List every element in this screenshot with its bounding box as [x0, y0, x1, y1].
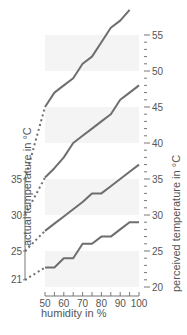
- right-tick-label: 30: [152, 210, 164, 221]
- connector-dotted: [25, 268, 45, 280]
- right-tick-label: 50: [152, 66, 164, 77]
- shaded-band: [45, 251, 139, 287]
- chart-svg: 21253035 2025303540455055 5060708090100 …: [0, 0, 187, 335]
- shaded-band: [45, 179, 139, 215]
- right-tick-label: 35: [152, 174, 164, 185]
- right-tick-label: 45: [152, 102, 164, 113]
- heat-index-chart: 21253035 2025303540455055 5060708090100 …: [0, 0, 187, 335]
- right-tick-label: 20: [152, 282, 164, 293]
- left-tick-label: 25: [11, 246, 23, 257]
- shaded-bands: [45, 35, 139, 287]
- x-tick-label: 90: [115, 298, 127, 309]
- shaded-band: [45, 35, 139, 71]
- x-axis-label: humidity in %: [41, 307, 107, 319]
- shaded-band: [45, 107, 139, 143]
- left-tick-label: 21: [11, 274, 23, 285]
- left-axis-label: actual temperature in °C: [21, 127, 33, 246]
- x-tick-label: 100: [131, 298, 148, 309]
- right-axis: 2025303540455055: [144, 30, 164, 293]
- right-axis-label: perceived temperature in °C: [170, 155, 182, 292]
- right-tick-label: 40: [152, 138, 164, 149]
- right-tick-label: 25: [152, 246, 164, 257]
- right-tick-label: 55: [152, 30, 164, 41]
